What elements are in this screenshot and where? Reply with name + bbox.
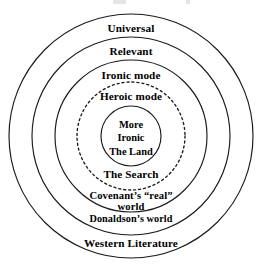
- core-label-more: More: [0, 118, 262, 131]
- concentric-circles-diagram: Universal Relevant Ironic mode Heroic mo…: [0, 0, 262, 275]
- ring-label-covenants-real-world-line1: Covenant’s “real”: [0, 190, 262, 201]
- ring-label-relevant: Relevant: [0, 46, 262, 58]
- core-label-the-land: The Land: [0, 145, 262, 158]
- ring-label-the-search: The Search: [0, 169, 262, 181]
- core-label-ironic: Ironic: [0, 131, 262, 144]
- ring-label-donaldsons-world: Donaldson’s world: [0, 214, 262, 225]
- ring-label-heroic-mode: Heroic mode: [0, 91, 262, 103]
- ring-label-ironic-mode: Ironic mode: [0, 70, 262, 82]
- ring-label-covenants-real-world-line2: world: [0, 201, 262, 212]
- ring-label-western-literature: Western Literature: [0, 238, 262, 250]
- core-label-stack: More Ironic The Land: [0, 118, 262, 158]
- ring-label-universal: Universal: [0, 23, 262, 35]
